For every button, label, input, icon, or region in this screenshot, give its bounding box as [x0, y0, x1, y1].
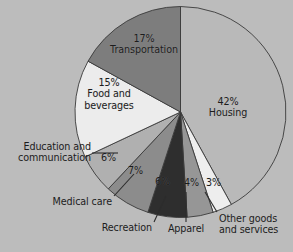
slice-label-housing: 42% Housing: [196, 96, 260, 119]
slice-percent-apparel: 4%: [184, 177, 206, 188]
slice-label-other-goods-and-services: Other goods and services: [219, 213, 291, 236]
slice-name-education-line2: communication: [3, 152, 91, 163]
slice-percent-other-goods: 3%: [206, 177, 228, 188]
slice-percent-transportation: 17%: [96, 33, 192, 44]
slice-percent-food: 15%: [74, 77, 144, 88]
slice-name-transportation: Transportation: [96, 44, 192, 55]
pie-chart: 42% Housing 17% Transportation 15% Food …: [0, 0, 293, 252]
slice-name-othergoods-line1: Other goods: [219, 213, 291, 224]
slice-name-education-line1: Education and: [3, 141, 91, 152]
slice-name-apparel: Apparel: [159, 223, 213, 234]
slice-percent-housing: 42%: [196, 96, 260, 107]
slice-percent-education: 6%: [101, 152, 127, 163]
slice-label-education: Education and communication: [3, 141, 91, 164]
slice-label-food-and-beverages: 15% Food and beverages: [74, 77, 144, 111]
slice-percent-recreation: 6%: [155, 176, 177, 187]
slice-name-recreation: Recreation: [86, 222, 152, 233]
slice-name-housing: Housing: [196, 107, 260, 118]
slice-name-othergoods-line2: and services: [219, 224, 291, 235]
slice-percent-medical-care: 7%: [128, 165, 152, 176]
slice-name-medical-care: Medical care: [46, 196, 112, 207]
slice-label-transportation: 17% Transportation: [96, 33, 192, 56]
slice-name-food-line2: beverages: [74, 100, 144, 111]
slice-name-food-line1: Food and: [74, 88, 144, 99]
